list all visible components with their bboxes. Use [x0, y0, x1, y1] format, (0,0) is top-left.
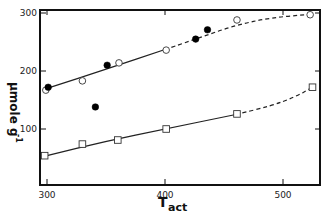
open-square-marker — [79, 141, 86, 148]
data-markers — [41, 11, 315, 159]
open-circle-marker — [234, 17, 241, 24]
open-square-marker — [163, 126, 170, 133]
chart: 300 400 500 100 200 300 T act μmole g -1 — [0, 0, 328, 215]
filled-circle-marker — [104, 62, 111, 69]
y-axis-label: μmole g -1 — [7, 82, 23, 143]
open-square-marker — [309, 84, 316, 91]
filled-circle-marker — [192, 36, 199, 43]
solid-fit-line — [47, 50, 165, 89]
filled-circle-marker — [204, 27, 211, 34]
open-circle-marker — [79, 78, 86, 85]
open-square-marker — [115, 137, 122, 144]
open-circle-marker — [116, 60, 123, 67]
filled-circle-marker — [92, 104, 99, 111]
svg-text:μmole g: μmole g — [7, 82, 21, 137]
open-square-marker — [234, 111, 241, 118]
filled-circle-marker — [45, 84, 52, 91]
open-square-marker — [41, 152, 48, 159]
svg-text:T: T — [158, 194, 168, 210]
axis-ticks — [40, 10, 320, 185]
dashed-fit-line — [236, 87, 313, 114]
svg-text:act: act — [168, 201, 187, 214]
x-tick-label-500: 500 — [274, 190, 291, 200]
open-circle-marker — [307, 11, 314, 18]
y-tick-label-100: 100 — [20, 124, 37, 134]
plot-frame — [40, 10, 320, 185]
fit-curves — [47, 14, 313, 156]
svg-text:-1: -1 — [14, 134, 23, 143]
x-tick-label-300: 300 — [38, 190, 55, 200]
open-circle-marker — [163, 47, 170, 54]
y-tick-label-200: 200 — [20, 66, 37, 76]
solid-fit-line — [47, 115, 236, 156]
y-tick-label-300: 300 — [20, 8, 37, 18]
